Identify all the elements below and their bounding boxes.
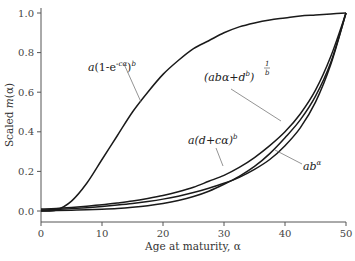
y-axis-label: Scaled m(α)	[3, 83, 15, 147]
leader-line-4	[275, 150, 302, 164]
leader-line-3	[216, 148, 223, 166]
annotation-eq2-pow-den: b	[265, 69, 270, 77]
series-line-1	[41, 13, 346, 211]
x-ticks: 01020304050	[38, 222, 353, 239]
series-line-4	[41, 13, 346, 211]
y-tick-label: 1.0	[18, 8, 34, 19]
y-tick-label: 0.4	[18, 126, 34, 137]
x-axis-label: Age at maturity, α	[144, 240, 241, 252]
series-line-2	[41, 13, 346, 209]
annotation-eq4: abα	[303, 159, 322, 173]
y-tick-label: 0.6	[18, 87, 34, 98]
leader-line-2	[231, 89, 281, 121]
x-tick-label: 30	[218, 228, 231, 239]
series-lines	[41, 13, 346, 211]
annotation-eq1: a(1-e-cα)b	[88, 60, 136, 74]
x-tick-label: 40	[279, 228, 292, 239]
y-tick-label: 0.0	[18, 206, 34, 217]
annotation-eq2: (abα+db)	[204, 70, 254, 84]
chart-canvas: 0.00.20.40.60.81.0 01020304050 a(1-e-cα)…	[0, 0, 355, 261]
annotation-eq3: a(d+cα)b	[188, 133, 238, 147]
x-tick-label: 0	[38, 228, 44, 239]
y-tick-label: 0.2	[18, 166, 34, 177]
annotation-eq2-pow-num: 1	[265, 60, 269, 68]
x-tick-label: 50	[340, 228, 353, 239]
series-line-3	[41, 13, 346, 210]
x-tick-label: 10	[96, 228, 109, 239]
x-tick-label: 20	[157, 228, 170, 239]
y-ticks: 0.00.20.40.60.81.0	[18, 8, 41, 217]
y-tick-label: 0.8	[18, 47, 34, 58]
